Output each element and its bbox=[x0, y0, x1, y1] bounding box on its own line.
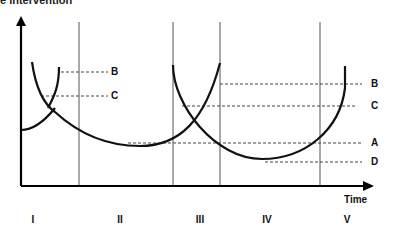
reference-lines bbox=[41, 72, 362, 162]
curve-left-rise bbox=[21, 108, 55, 130]
right-label-b: B bbox=[371, 78, 378, 89]
diagram-canvas bbox=[0, 0, 393, 243]
curves bbox=[21, 62, 345, 159]
phase-separators bbox=[79, 22, 320, 186]
curve-1 bbox=[32, 62, 220, 146]
curve-left-branch bbox=[48, 67, 59, 108]
phase-label-2: II bbox=[117, 214, 123, 225]
phase-label-1: I bbox=[32, 214, 35, 225]
left-label-c: C bbox=[111, 90, 118, 101]
y-axis-arrow-icon bbox=[16, 16, 26, 26]
right-label-a: A bbox=[371, 137, 378, 148]
x-axis-arrow-icon bbox=[363, 181, 374, 191]
curve-2 bbox=[173, 65, 345, 159]
left-label-b: B bbox=[111, 66, 118, 77]
phase-label-5: V bbox=[344, 214, 351, 225]
x-axis-label: Time bbox=[344, 194, 367, 205]
phase-label-3: III bbox=[196, 214, 204, 225]
right-label-c: C bbox=[371, 100, 378, 111]
right-label-d: D bbox=[371, 156, 378, 167]
phase-label-4: IV bbox=[262, 214, 271, 225]
